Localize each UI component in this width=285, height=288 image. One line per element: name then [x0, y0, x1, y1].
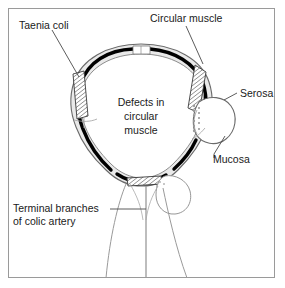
label-circular-muscle: Circular muscle [150, 12, 223, 24]
taenia-coli-band-bottom [127, 176, 162, 186]
label-serosa: Serosa [240, 87, 273, 99]
label-terminal-branches-line2: of colic artery [13, 215, 76, 227]
diverticulum-sac [193, 97, 235, 143]
anatomy-diagram: Taenia coli Circular muscle Serosa Mucos… [0, 0, 285, 288]
label-defects-line2: circular [124, 110, 158, 122]
label-mucosa: Mucosa [213, 153, 250, 165]
leader-taenia-coli [52, 30, 79, 77]
figure-root: Taenia coli Circular muscle Serosa Mucos… [0, 0, 285, 288]
diverticulum-lower-pouch [156, 176, 191, 214]
label-taenia-coli: Taenia coli [19, 19, 69, 31]
label-defects-line1: Defects in [118, 96, 165, 108]
leader-serosa [224, 93, 237, 100]
label-terminal-branches-line1: Terminal branches [13, 202, 99, 214]
label-defects-line3: muscle [124, 124, 157, 136]
defect-gap-top [133, 46, 150, 54]
